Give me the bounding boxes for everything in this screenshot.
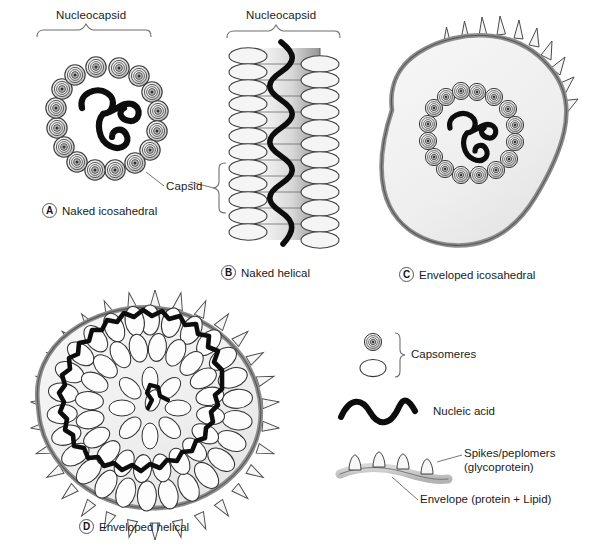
- nucleic-acid-strand-a: [81, 90, 138, 148]
- legend-leader-spikes: [437, 455, 462, 462]
- legend-capsomere-pair-icon: [360, 333, 386, 376]
- legend-label-nucleic-acid: Nucleic acid: [433, 405, 495, 419]
- legend-leader-envelope: [392, 477, 418, 500]
- panel-tag-a-letter: A: [42, 203, 57, 218]
- bracket-nucleocapsid-a: [37, 24, 151, 37]
- capsid-ring-a: [46, 57, 168, 180]
- envelope-c: [382, 35, 567, 245]
- bracket-label-nucleocapsid-b: Nucleocapsid: [246, 9, 316, 21]
- legend-bracket-capsomeres: [395, 333, 405, 377]
- legend-label-envelope: Envelope (protein + Lipid): [420, 493, 551, 507]
- panel-label-b: Naked helical: [241, 267, 310, 279]
- panel-tag-b: B Naked helical: [221, 265, 310, 280]
- helical-capsid-b: [229, 48, 339, 249]
- panel-label-d: Enveloped helical: [99, 521, 189, 533]
- virus-structure-figure: Nucleocapsid Nucleocapsid Capsid A Naked…: [0, 0, 607, 558]
- panel-tag-b-letter: B: [221, 265, 236, 280]
- bracket-nucleocapsid-b: [227, 25, 340, 38]
- panel-tag-c-letter: C: [399, 267, 414, 282]
- panel-tag-d: D Enveloped helical: [79, 519, 189, 534]
- panel-tag-a: A Naked icosahedral: [42, 203, 157, 218]
- callout-label-capsid: Capsid: [166, 180, 202, 192]
- panel-c-enveloped-icosahedral: [382, 16, 578, 245]
- bracket-label-nucleocapsid-a: Nucleocapsid: [56, 9, 126, 21]
- legend-label-spikes: Spikes/peplomers (glycoprotein): [464, 447, 555, 474]
- panel-d-enveloped-helical: [30, 290, 280, 540]
- callout-capsid-leader: [146, 172, 164, 186]
- panel-label-c: Enveloped icosahedral: [419, 269, 535, 281]
- panel-tag-c: C Enveloped icosahedral: [399, 267, 535, 282]
- panel-label-a: Naked icosahedral: [62, 205, 157, 217]
- legend-wavy-line-icon: [341, 400, 415, 422]
- legend-label-capsomeres: Capsomeres: [411, 348, 476, 362]
- panel-a-naked-icosahedral: [37, 24, 168, 186]
- panel-tag-d-letter: D: [79, 519, 94, 534]
- panel-b-naked-helical: [190, 25, 340, 248]
